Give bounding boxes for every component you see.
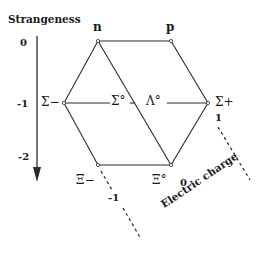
vertex-sigma-plus (206, 101, 209, 104)
charge-tick-minus1: -1 (108, 193, 119, 203)
particle-label-p: p (166, 21, 174, 33)
strangeness-tick-minus1: -1 (17, 99, 28, 109)
edge-p-sigmaplus (171, 41, 208, 103)
octet-diagram (0, 0, 264, 254)
charge-axis-dash-minus1-upper (101, 171, 112, 190)
edge-ximinus-sigmaminus (64, 103, 98, 165)
vertex-p (169, 39, 172, 42)
vertex-xi-zero (169, 163, 172, 166)
strangeness-axis-label: Strangeness (8, 14, 81, 25)
particle-label-xi-zero: Ξ° (152, 174, 166, 186)
vertex-sigma-minus (62, 101, 65, 104)
particle-label-n: n (93, 21, 102, 33)
edge-sigmaminus-n (64, 41, 98, 103)
strangeness-axis-arrow-icon (33, 167, 41, 182)
vertex-xi-minus (96, 163, 99, 166)
charge-tick-plus1: 1 (215, 113, 222, 123)
edge-sigmaplus-xizero (171, 103, 208, 165)
strangeness-tick-minus2: -2 (18, 152, 29, 162)
charge-axis-dash-minus1-lower (123, 208, 141, 239)
particle-label-lambda-zero: Λ° (146, 95, 161, 107)
vertex-n (96, 39, 99, 42)
particle-label-xi-minus: Ξ− (76, 174, 95, 186)
particle-label-sigma-zero: Σ° (111, 95, 125, 107)
particle-label-sigma-plus: Σ+ (215, 96, 234, 108)
particle-label-sigma-minus: Σ− (41, 96, 60, 108)
strangeness-tick-0: 0 (20, 38, 27, 48)
